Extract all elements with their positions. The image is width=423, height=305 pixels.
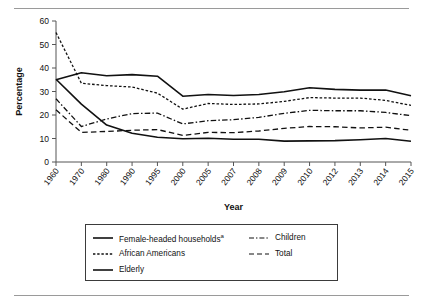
legend-item-children: Children [249,230,346,246]
x-axis-tick-label: 2014 [371,166,391,187]
y-axis-tick-label: 50 [40,40,50,50]
y-axis-title: Percentage [14,67,24,116]
y-axis-tick-label: 30 [40,87,50,97]
x-axis-tick-label: 2007 [219,166,239,187]
x-axis-tick-label: 2015 [397,166,417,187]
x-axis-tick-label: 2013 [346,166,366,187]
x-axis-tick-label: 2009 [270,166,290,187]
legend-swatch-dash-dot [249,234,269,242]
y-axis-tick-label: 40 [40,63,50,73]
x-axis-tick-label: 1960 [42,166,62,187]
y-axis-tick-label: 20 [40,110,50,120]
x-axis-tick-label: 2005 [194,166,214,187]
x-axis-tick-label: 1990 [118,166,138,187]
legend-label-african-americans: African Americans [119,250,185,258]
y-axis-tick-label: 10 [40,134,50,144]
legend-swatch-dashed [249,250,269,258]
chart-legend: Female-headed householdsa Children Afric… [85,224,338,281]
series-line-total [56,110,411,136]
legend-label-total: Total [275,250,292,258]
legend-item-total: Total [249,246,346,262]
legend-swatch-solid-2 [93,266,113,274]
y-axis-tick-label: 0 [44,157,49,167]
x-axis-tick-label: 1995 [143,166,163,187]
legend-label-elderly: Elderly [119,266,144,274]
series-line-african-americans [56,33,411,110]
x-axis-tick-label: 2010 [295,166,315,187]
legend-item-elderly: Elderly [93,262,249,278]
x-axis-tick-label: 2000 [168,166,188,187]
x-axis-title: Year [224,202,244,212]
legend-item-african-americans: African Americans [93,246,249,262]
legend-label-children: Children [275,234,306,242]
x-axis-tick-label: 2008 [244,166,264,187]
series-line-female-headed-households [56,73,411,97]
legend-swatch-solid [93,234,113,242]
legend-item-female-headed-households: Female-headed householdsa [93,230,249,246]
x-axis-tick-label: 1980 [92,166,112,187]
y-axis-tick-label: 60 [40,16,50,26]
series-line-children [56,99,411,127]
x-axis-tick-label: 2012 [320,166,340,187]
legend-label-female-headed-households: Female-headed householdsa [119,233,224,244]
x-axis-tick-label: 1970 [67,166,87,187]
legend-swatch-dotted [93,250,113,258]
